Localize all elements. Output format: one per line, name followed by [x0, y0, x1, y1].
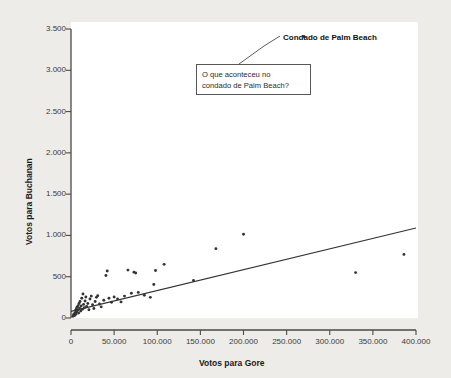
- x-axis-title: Votos para Gore: [199, 358, 265, 368]
- y-axis-ticks: [66, 29, 71, 318]
- y-tick-label: 0: [20, 313, 66, 322]
- data-point: [89, 298, 92, 301]
- data-point: [91, 303, 94, 306]
- data-point: [85, 305, 88, 308]
- data-point: [77, 312, 80, 315]
- data-point: [84, 295, 87, 298]
- y-tick-label: 3.000: [20, 65, 66, 74]
- data-point: [242, 233, 245, 236]
- data-point: [90, 295, 93, 298]
- data-point: [80, 305, 83, 308]
- data-point: [110, 301, 113, 304]
- data-point: [130, 292, 133, 295]
- data-point: [108, 297, 111, 300]
- callout-annotation-box: O que aconteceu no condado de Palm Beach…: [196, 64, 311, 95]
- data-point: [92, 307, 95, 310]
- data-point: [104, 274, 107, 277]
- data-point: [123, 295, 126, 298]
- y-tick-label: 3.500: [20, 24, 66, 33]
- x-tick-label: 400.000: [391, 337, 441, 346]
- data-point: [84, 300, 87, 303]
- y-tick-label: 2.500: [20, 107, 66, 116]
- data-point: [79, 300, 82, 303]
- data-point: [86, 302, 89, 305]
- callout-leader-line: [239, 36, 280, 64]
- data-point: [137, 291, 140, 294]
- y-tick-label: 500: [20, 272, 66, 281]
- data-point: [163, 263, 166, 266]
- data-point: [96, 294, 99, 297]
- callout-line-1: O que aconteceu no: [197, 65, 310, 80]
- data-point: [143, 294, 146, 297]
- data-point: [82, 293, 85, 296]
- data-point: [113, 295, 116, 298]
- data-point: [80, 297, 83, 300]
- y-tick-label: 2.000: [20, 148, 66, 157]
- data-point: [98, 303, 101, 306]
- data-point: [214, 247, 217, 250]
- data-point: [152, 283, 155, 286]
- data-point: [120, 300, 123, 303]
- data-point: [87, 308, 90, 311]
- data-point: [116, 298, 119, 301]
- data-point: [134, 272, 137, 275]
- data-point: [149, 296, 152, 299]
- chart-svg: [0, 0, 451, 378]
- x-axis-ticks: [71, 330, 416, 335]
- data-point: [154, 269, 157, 272]
- data-point: [82, 303, 85, 306]
- data-point: [102, 299, 105, 302]
- data-point: [192, 279, 195, 282]
- outlier-label: Condado de Palm Beach: [283, 33, 377, 42]
- data-point: [74, 313, 77, 316]
- y-axis-title: Votos para Buchanan: [24, 158, 34, 245]
- data-point: [94, 300, 97, 303]
- data-point: [354, 271, 357, 274]
- regression-line: [71, 228, 416, 311]
- data-point: [100, 305, 103, 308]
- data-point: [402, 253, 405, 256]
- chart-figure: 05001.0001.5002.0002.5003.0003.500 050.0…: [0, 0, 451, 378]
- data-point: [126, 269, 129, 272]
- data-point: [106, 269, 109, 272]
- callout-line-2: condado de Palm Beach?: [197, 80, 310, 91]
